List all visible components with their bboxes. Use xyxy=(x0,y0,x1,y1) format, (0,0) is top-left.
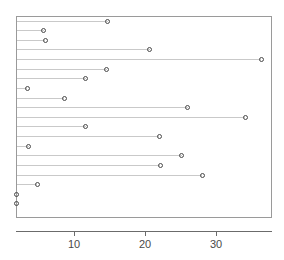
data-point-marker[interactable] xyxy=(179,153,184,158)
data-row xyxy=(17,184,273,185)
data-point-marker[interactable] xyxy=(158,163,163,168)
data-row xyxy=(17,30,273,31)
data-point-marker[interactable] xyxy=(41,28,46,33)
stem-line xyxy=(17,49,150,50)
data-row xyxy=(17,78,273,79)
data-row xyxy=(17,88,273,89)
data-point-marker[interactable] xyxy=(83,76,88,81)
data-point-marker[interactable] xyxy=(104,67,109,72)
data-point-marker[interactable] xyxy=(25,86,30,91)
data-point-marker[interactable] xyxy=(105,19,110,24)
data-point-marker[interactable] xyxy=(200,173,205,178)
data-point-marker[interactable] xyxy=(157,134,162,139)
data-row xyxy=(17,126,273,127)
x-axis-tick xyxy=(216,231,217,236)
stem-line xyxy=(17,155,182,156)
data-point-marker[interactable] xyxy=(14,192,19,197)
stem-line xyxy=(17,78,86,79)
data-row xyxy=(17,136,273,137)
data-point-marker[interactable] xyxy=(259,57,264,62)
x-axis-tick xyxy=(74,231,75,236)
plot-panel xyxy=(16,16,272,218)
stem-line xyxy=(17,175,202,176)
data-row xyxy=(17,40,273,41)
stem-line xyxy=(17,107,188,108)
data-point-marker[interactable] xyxy=(62,96,67,101)
data-row xyxy=(17,165,273,166)
x-axis-tick-label: 30 xyxy=(210,238,222,250)
data-row xyxy=(17,175,273,176)
x-axis-tick xyxy=(145,231,146,236)
data-point-marker[interactable] xyxy=(35,182,40,187)
stem-line xyxy=(17,40,45,41)
stem-line xyxy=(17,59,261,60)
data-row xyxy=(17,117,273,118)
stem-line xyxy=(17,117,246,118)
data-point-marker[interactable] xyxy=(185,105,190,110)
data-point-marker[interactable] xyxy=(243,115,248,120)
data-point-marker[interactable] xyxy=(147,47,152,52)
stem-line xyxy=(17,30,44,31)
data-row xyxy=(17,21,273,22)
plot-area xyxy=(17,17,271,217)
stem-line xyxy=(17,69,107,70)
x-axis-tick-label: 20 xyxy=(139,238,151,250)
x-axis-tick-label: 10 xyxy=(68,238,80,250)
data-row xyxy=(17,155,273,156)
stem-line xyxy=(17,126,86,127)
data-row xyxy=(17,107,273,108)
data-row xyxy=(17,49,273,50)
data-row xyxy=(17,146,273,147)
data-point-marker[interactable] xyxy=(43,38,48,43)
x-axis: 102030 xyxy=(0,218,284,260)
data-point-marker[interactable] xyxy=(83,124,88,129)
data-row xyxy=(17,59,273,60)
stem-line xyxy=(17,21,108,22)
stem-line xyxy=(17,165,160,166)
data-row xyxy=(17,203,273,204)
data-row xyxy=(17,98,273,99)
data-row xyxy=(17,194,273,195)
data-point-marker[interactable] xyxy=(14,201,19,206)
data-row xyxy=(17,69,273,70)
data-point-marker[interactable] xyxy=(26,144,31,149)
stem-line xyxy=(17,136,160,137)
x-axis-line xyxy=(16,231,272,232)
chart-root: 102030 xyxy=(0,0,284,260)
stem-line xyxy=(17,98,65,99)
